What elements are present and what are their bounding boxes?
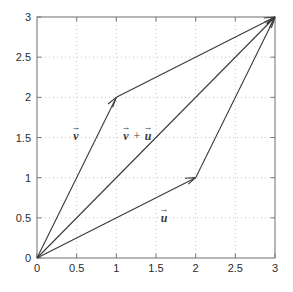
y-tick-label: 0 bbox=[25, 252, 31, 264]
y-tick-label: 0.5 bbox=[16, 212, 31, 224]
y-tick-label: 1 bbox=[25, 172, 31, 184]
y-tick-labels: 0 0.5 1 1.5 2 2.5 3 bbox=[16, 11, 31, 264]
y-tick-label: 2 bbox=[25, 91, 31, 103]
x-tick-label: 2 bbox=[193, 262, 199, 274]
v-label-letter: v bbox=[73, 129, 79, 143]
y-tick-label: 3 bbox=[25, 11, 31, 23]
plot-canvas: 0 0.5 1 1.5 2 2.5 3 0 0.5 1 1.5 2 2.5 3 bbox=[0, 0, 293, 292]
label-vector-u: → u bbox=[160, 204, 169, 225]
x-tick-label: 0.5 bbox=[69, 262, 84, 274]
sum-operator: + bbox=[134, 129, 141, 143]
x-tick-labels: 0 0.5 1 1.5 2 2.5 3 bbox=[34, 262, 278, 274]
x-tick-label: 1.5 bbox=[148, 262, 163, 274]
vector-addition-figure: 0 0.5 1 1.5 2 2.5 3 0 0.5 1 1.5 2 2.5 3 bbox=[0, 0, 293, 292]
x-tick-label: 0 bbox=[34, 262, 40, 274]
sum-second-letter: u bbox=[145, 129, 152, 143]
y-tick-label: 2.5 bbox=[16, 51, 31, 63]
x-tick-label: 1 bbox=[113, 262, 119, 274]
u-label-letter: u bbox=[161, 211, 168, 225]
x-tick-label: 2.5 bbox=[228, 262, 243, 274]
x-tick-label: 3 bbox=[272, 262, 278, 274]
sum-first-letter: v bbox=[123, 129, 129, 143]
y-tick-label: 1.5 bbox=[16, 132, 31, 144]
